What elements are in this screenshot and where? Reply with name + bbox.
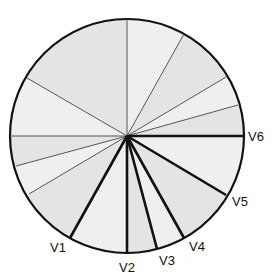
lead-label-v3: V3 [159,253,175,268]
lead-label-v2: V2 [119,260,135,275]
lead-label-v1: V1 [50,240,66,255]
lead-label-v4: V4 [189,239,205,254]
lead-label-v5: V5 [232,194,248,209]
lead-label-v6: V6 [248,129,264,144]
lead-wheel-diagram: V1 V2 V3 V4 V5 V6 [0,0,275,280]
